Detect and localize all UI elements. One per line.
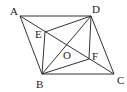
label-a: A <box>10 5 18 17</box>
geometry-figure: A D E O F B C <box>0 0 127 92</box>
label-b: B <box>36 78 43 90</box>
segment-be <box>42 32 45 74</box>
label-c: C <box>117 74 124 86</box>
label-d: D <box>92 3 100 15</box>
segment-fb <box>42 59 89 74</box>
label-o: O <box>63 49 71 61</box>
segment-df <box>89 16 91 59</box>
label-e: E <box>35 28 42 40</box>
label-f: F <box>92 50 98 62</box>
segment-dc <box>91 16 114 74</box>
segment-ba <box>20 16 42 74</box>
